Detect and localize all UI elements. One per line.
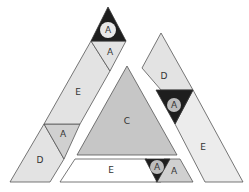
label-bottom-e: E (108, 165, 114, 175)
label-left-small-a: A (60, 129, 67, 139)
label-right-dark-a: A (171, 100, 178, 110)
label-center-c: C (124, 116, 130, 126)
label-left-e: E (75, 87, 81, 97)
label-top-dark-a: A (105, 25, 112, 35)
right-strip-region-d (142, 33, 193, 90)
triangle-puzzle-diagram: A A E A D C E A A D A E (0, 0, 249, 192)
label-right-d: D (161, 71, 168, 81)
label-left-d: D (37, 155, 44, 165)
label-bottom-light-a: A (171, 166, 178, 176)
label-top-light-a: A (107, 47, 114, 57)
label-right-e: E (200, 142, 206, 152)
label-bottom-dark-a: A (154, 162, 161, 172)
